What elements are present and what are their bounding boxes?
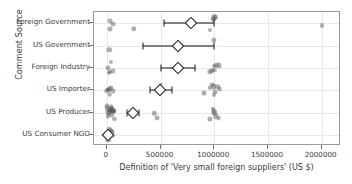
data-point: [207, 116, 212, 121]
data-point: [112, 117, 116, 121]
data-point: [215, 84, 220, 89]
y-tick-mark: [89, 67, 93, 68]
y-gridline: [94, 46, 339, 47]
data-point: [107, 92, 111, 96]
data-point: [109, 60, 113, 64]
error-bar-cap: [214, 42, 215, 49]
error-bar-cap: [172, 87, 173, 94]
x-axis-label: Definition of 'Very small foreign suppli…: [93, 163, 340, 172]
mean-marker: [102, 128, 115, 141]
x-tick-mark: [213, 145, 214, 149]
data-point: [131, 26, 136, 31]
error-bar-cap: [214, 20, 215, 27]
chart-figure: Comment Source Foreign GovernmentUS Gove…: [0, 0, 352, 184]
y-tick-label: US Consumer NGO: [4, 129, 90, 138]
y-tick-mark: [89, 112, 93, 113]
data-point: [108, 104, 113, 109]
y-tick-label: US Government: [4, 40, 90, 49]
mean-marker: [171, 39, 184, 52]
y-tick-mark: [89, 134, 93, 135]
data-point: [107, 108, 111, 112]
data-point: [108, 70, 112, 74]
y-gridline: [94, 23, 339, 24]
mean-marker: [184, 17, 197, 30]
data-point: [207, 69, 212, 74]
y-gridline: [94, 68, 339, 69]
y-tick-label: Foreign Industry: [4, 62, 90, 71]
x-gridline: [322, 12, 323, 144]
y-axis-ticks: Foreign GovernmentUS GovernmentForeign I…: [0, 0, 90, 184]
y-tick-mark: [89, 89, 93, 90]
x-tick-label: 0: [104, 150, 109, 159]
x-tick-label: 1500000: [251, 150, 283, 159]
x-tick-mark: [267, 145, 268, 149]
y-tick-label: Foreign Government: [4, 17, 90, 26]
data-point: [216, 115, 221, 120]
plot-area: [93, 11, 340, 145]
x-tick-mark: [106, 145, 107, 149]
data-point: [108, 27, 113, 32]
mean-marker: [172, 61, 185, 74]
data-point: [208, 85, 213, 90]
error-bar-cap: [143, 42, 144, 49]
data-point: [109, 106, 114, 111]
mean-marker: [154, 84, 167, 97]
x-gridline: [107, 12, 108, 144]
y-gridline: [94, 90, 339, 91]
y-gridline: [94, 135, 339, 136]
x-tick-label: 2000000: [305, 150, 337, 159]
data-point: [111, 68, 116, 73]
x-gridline: [161, 12, 162, 144]
data-point: [208, 28, 212, 32]
y-tick-mark: [89, 45, 93, 46]
data-point: [155, 115, 160, 120]
y-tick-label: US Importer: [4, 84, 90, 93]
x-tick-mark: [321, 145, 322, 149]
x-gridline: [214, 12, 215, 144]
error-bar-cap: [163, 20, 164, 27]
x-tick-label: 1000000: [197, 150, 229, 159]
error-bar-cap: [194, 64, 195, 71]
error-bar-cap: [161, 64, 162, 71]
y-tick-mark: [89, 22, 93, 23]
error-bar-cap: [149, 87, 150, 94]
x-tick-label: 500000: [146, 150, 173, 159]
x-gridline: [268, 12, 269, 144]
y-tick-label: US Producer: [4, 107, 90, 116]
x-tick-mark: [160, 145, 161, 149]
